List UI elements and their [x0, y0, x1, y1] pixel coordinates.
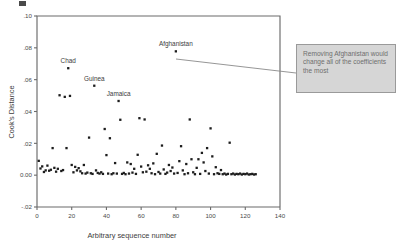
data-point [114, 162, 116, 164]
data-point [201, 152, 203, 154]
x-tick-label: 120 [240, 212, 251, 219]
data-point [58, 94, 60, 96]
data-point [67, 67, 69, 69]
data-point [145, 171, 147, 173]
data-point [72, 171, 74, 173]
callout-text: Removing Afghanistan would change all of… [303, 50, 390, 75]
data-point [126, 161, 128, 163]
data-point [38, 160, 40, 162]
data-point [209, 127, 211, 129]
data-point [199, 173, 201, 175]
point-label-afghanistan: Afghanistan [159, 40, 193, 48]
data-point [173, 172, 175, 174]
scatter-plot: .10.08.06.04.020.00-.02 0204060801001201… [0, 0, 403, 248]
data-point [91, 173, 93, 175]
point-label-guinea: Guinea [84, 75, 105, 82]
data-point [143, 118, 145, 120]
x-tick-label: 60 [138, 212, 145, 219]
callout-box: Removing Afghanistan would change all of… [296, 44, 396, 93]
data-point [150, 172, 152, 174]
data-point [166, 171, 168, 173]
data-point [190, 158, 192, 160]
data-point [51, 147, 53, 149]
data-point [138, 117, 140, 119]
data-point [171, 166, 173, 168]
data-point [119, 119, 121, 121]
x-tick-label: 20 [68, 212, 75, 219]
x-tick-label: 40 [103, 212, 110, 219]
data-point [218, 173, 220, 175]
data-point [189, 118, 191, 120]
data-point [128, 172, 130, 174]
y-tick-label: .02 [23, 140, 32, 147]
data-point [194, 173, 196, 175]
data-point [50, 169, 52, 171]
data-point [147, 164, 149, 166]
data-point [74, 166, 76, 168]
data-point [41, 165, 43, 167]
x-tick-label: 0 [35, 212, 39, 219]
data-point [170, 170, 172, 172]
x-axis-ticks: 020406080100120140 [35, 207, 285, 219]
point-labels: ChadGuineaJamaicaAfghanistan [61, 40, 194, 97]
data-point [178, 160, 180, 162]
data-point [95, 169, 97, 171]
data-point [112, 172, 114, 174]
y-tick-label: .06 [23, 76, 32, 83]
data-point [105, 154, 107, 156]
data-point [62, 169, 64, 171]
y-tick-label: -.02 [21, 203, 32, 210]
data-point [65, 147, 67, 149]
y-tick-label: .04 [23, 108, 32, 115]
corner-artifact [19, 1, 26, 6]
data-point [81, 172, 83, 174]
data-point [107, 172, 109, 174]
data-point [183, 173, 185, 175]
data-point [53, 167, 55, 169]
data-point [196, 167, 198, 169]
data-point [130, 163, 132, 165]
data-point [215, 166, 217, 168]
data-point [69, 95, 71, 97]
y-axis-title: Cook's Distance [7, 85, 16, 138]
data-point [204, 170, 206, 172]
data-point [93, 85, 95, 87]
data-point [39, 167, 41, 169]
cooks-distance-figure: .10.08.06.04.020.00-.02 0204060801001201… [0, 0, 403, 248]
data-point [213, 173, 215, 175]
data-point [131, 171, 133, 173]
y-tick-label: 0.00 [20, 171, 33, 178]
data-point [163, 168, 165, 170]
data-point [109, 137, 111, 139]
point-label-chad: Chad [61, 57, 77, 64]
data-point [185, 163, 187, 165]
x-tick-label: 80 [172, 212, 179, 219]
point-label-jamaica: Jamaica [107, 90, 131, 97]
x-axis-title: Arbitrary sequence number [87, 231, 177, 240]
data-point [255, 173, 257, 175]
data-point [133, 168, 135, 170]
data-point [161, 144, 163, 146]
y-tick-label: .08 [23, 44, 32, 51]
data-point [45, 169, 47, 171]
x-tick-label: 100 [205, 212, 216, 219]
data-point [156, 153, 158, 155]
data-point [64, 96, 66, 98]
data-point [202, 161, 204, 163]
data-point [88, 136, 90, 138]
data-point [102, 173, 104, 175]
data-point [135, 173, 137, 175]
data-point [76, 169, 78, 171]
data-point [152, 162, 154, 164]
x-tick-label: 140 [275, 212, 286, 219]
data-point [168, 164, 170, 166]
data-point [116, 172, 118, 174]
data-point [227, 173, 229, 175]
data-point [149, 168, 151, 170]
data-point [86, 171, 88, 173]
data-point [140, 165, 142, 167]
y-axis-ticks: .10.08.06.04.020.00-.02 [20, 12, 37, 210]
data-point [197, 158, 199, 160]
data-point [57, 168, 59, 170]
callout-leader-line [176, 59, 296, 73]
